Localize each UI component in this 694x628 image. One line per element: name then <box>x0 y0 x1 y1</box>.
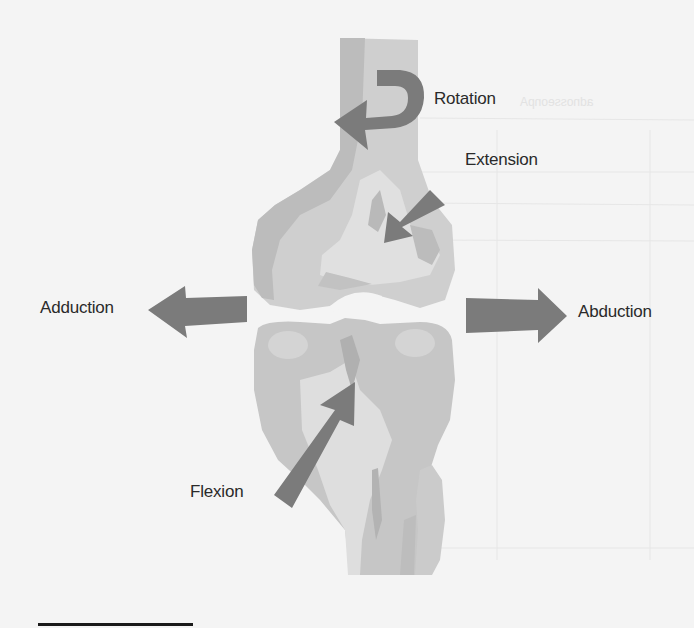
bleed-through-lines <box>420 118 694 560</box>
adduction-label: Adduction <box>40 298 114 318</box>
femur <box>252 38 455 312</box>
adduction-arrow-icon <box>148 286 247 338</box>
abduction-label: Abduction <box>578 302 652 322</box>
fibula <box>415 465 445 575</box>
knee-motion-diagram: adnosseonpA Rotation Extension Adduction… <box>0 0 694 628</box>
bleed-through-text: adnosseonpA <box>520 95 593 109</box>
rotation-label: Rotation <box>434 89 496 109</box>
extension-label: Extension <box>465 150 538 170</box>
tibia <box>254 318 455 575</box>
flexion-label: Flexion <box>190 482 243 502</box>
footnote-rule <box>38 623 193 626</box>
abduction-arrow-icon <box>466 288 567 343</box>
